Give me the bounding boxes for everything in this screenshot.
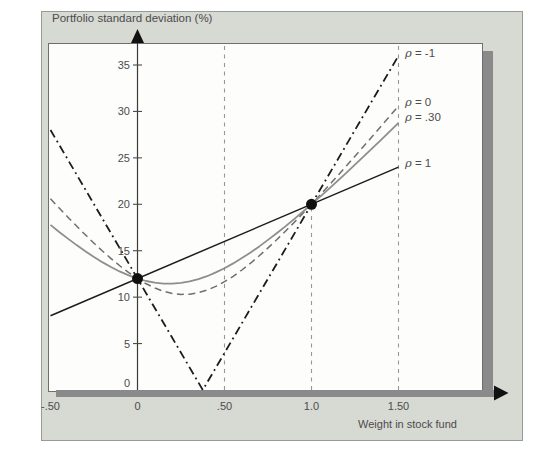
y-tick-label-25: 25 [102,151,130,165]
y-tick-label-20: 20 [102,197,130,211]
x-tick-label-1: 1.0 [290,399,334,413]
y-tick-label-0: 0 [102,376,130,390]
legend-label-rho-1: ρ = 1 [405,156,431,170]
x-tick-label-0.5: .50 [203,399,247,413]
y-axis-title: Portfolio standard deviation (%) [52,11,212,25]
x-tick-label-1.5: 1.50 [377,399,421,413]
legend-label-rho-0: ρ = 0 [405,95,431,109]
panel-drop-shadow-right [483,51,493,397]
portfolio-risk-figure: Portfolio standard deviation (%) Weight … [0,0,533,458]
y-tick-label-10: 10 [102,290,130,304]
legend-label-rho-neg1: ρ = -1 [405,46,435,60]
y-tick-label-5: 5 [102,337,130,351]
y-tick-label-35: 35 [102,58,130,72]
x-tick-label-0: 0 [116,399,160,413]
x-tick-label--0.5: -.50 [29,399,73,413]
legend-label-rho-30: ρ = .30 [405,110,441,124]
y-tick-label-15: 15 [102,244,130,258]
x-axis-bar [56,390,495,397]
x-axis-title: Weight in stock fund [330,417,485,431]
y-tick-label-30: 30 [102,104,130,118]
